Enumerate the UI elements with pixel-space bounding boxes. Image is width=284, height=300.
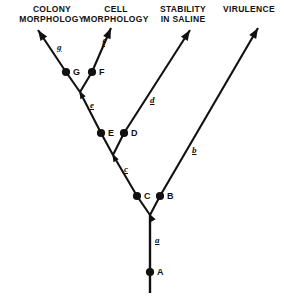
branch-label-c: c xyxy=(124,165,128,174)
column-header-stability-in-saline: STABILITY IN SALINE xyxy=(152,4,214,24)
branch-label-g: g xyxy=(57,43,62,52)
node-dot-E xyxy=(97,129,105,137)
tree-nodes xyxy=(62,68,164,276)
node-label-G: G xyxy=(73,68,80,77)
branch-c-node-to-junction-d xyxy=(113,155,137,196)
node-dot-D xyxy=(120,129,128,137)
junction-arrow-mid xyxy=(112,154,118,162)
junction-arrow-root xyxy=(149,214,155,222)
branch-label-b: b xyxy=(192,146,197,155)
tree-diagram xyxy=(0,0,284,300)
node-label-A: A xyxy=(157,268,164,277)
branch-label-d: d xyxy=(150,96,155,105)
node-label-D: D xyxy=(131,129,138,138)
junction-arrow-upper xyxy=(79,91,85,99)
junction-arrowheads xyxy=(79,91,155,222)
branch-label-a: a xyxy=(155,236,160,245)
node-label-E: E xyxy=(108,129,114,138)
node-dot-G xyxy=(62,68,70,76)
figure-canvas: COLONY MORPHOLOGYCELL MORPHOLOGYSTABILIT… xyxy=(0,0,284,300)
node-dot-B xyxy=(156,192,164,200)
branch-d-node-to-stability xyxy=(124,30,190,133)
column-header-cell-morphology: CELL MORPHOLOGY xyxy=(78,4,154,24)
column-header-virulence: VIRULENCE xyxy=(218,4,280,14)
node-dot-A xyxy=(146,268,154,276)
node-dot-F xyxy=(88,68,96,76)
arrowhead-b-node-to-virulence xyxy=(249,28,258,39)
arrowhead-g-node-to-colony xyxy=(38,30,47,41)
arrowhead-d-node-to-stability xyxy=(181,30,190,41)
branch-label-e: e xyxy=(90,101,94,110)
branch-label-f: f xyxy=(102,38,105,47)
node-dot-C xyxy=(133,192,141,200)
node-label-B: B xyxy=(167,192,174,201)
tree-branches xyxy=(38,28,258,293)
branch-e-node-to-junction-f xyxy=(80,92,101,133)
branch-arrowheads xyxy=(38,28,258,41)
node-label-F: F xyxy=(99,68,105,77)
node-label-C: C xyxy=(144,192,151,201)
